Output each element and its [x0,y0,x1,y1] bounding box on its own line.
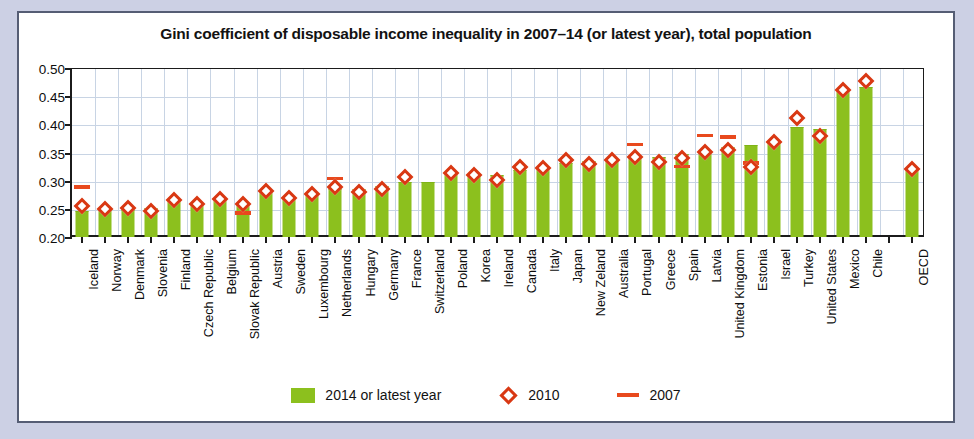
bar-2014 [791,127,804,237]
x-axis-tick-mark [796,237,798,243]
x-axis-label: Norway [110,249,124,292]
x-axis-label: Greece [664,249,678,290]
x-axis-tick-mark [196,237,198,243]
x-axis-label: Mexico [848,249,862,289]
bar-2014 [767,143,780,237]
bar-group [670,68,693,237]
x-axis-label: Chile [871,249,885,278]
bar-group [416,68,439,237]
x-axis-label: United Kingdom [733,249,747,339]
bar-group [139,68,162,237]
x-axis-label: Korea [479,249,493,283]
bar-2014 [560,163,573,237]
legend-diamond-marker-icon [500,386,518,404]
bar-2014 [444,174,457,237]
x-axis-tick-mark [404,237,406,243]
x-axis-tick-mark [473,237,475,243]
bar-group [370,68,393,237]
x-axis-label: Belgium [225,249,239,295]
legend-label: 2014 or latest year [325,387,441,403]
y-axis-tick-label: 0.35 [39,146,65,161]
x-axis-tick-mark [427,237,429,243]
bar-group [278,68,301,237]
chart-figure-frame: Gini coefficient of disposable income in… [17,11,955,423]
x-axis-tick-mark [311,237,313,243]
x-axis-tick-mark [542,237,544,243]
bar-group [509,68,532,237]
x-axis-label: Switzerland [433,249,447,314]
legend-dash-marker-icon [617,393,639,397]
x-axis-label: Germany [387,249,401,301]
bar-2014 [606,159,619,237]
legend-label: 2007 [649,387,680,403]
x-axis-label: Austria [271,249,285,288]
x-axis-label: Poland [456,249,470,288]
x-axis-label: OECD [917,249,931,285]
bar-group [786,68,809,237]
x-axis-tick-mark [773,237,775,243]
x-axis-labels: IcelandNorwayDenmarkSloveniaFinlandCzech… [70,249,924,369]
x-axis-tick-mark [681,237,683,243]
bar-group [232,68,255,237]
x-axis-tick-mark [611,237,613,243]
x-axis-label: Italy [548,249,562,272]
x-axis-tick-mark [496,237,498,243]
y-axis-tick-label: 0.50 [39,62,65,77]
x-axis-label: New Zeland [594,249,608,316]
y-axis-tick-label: 0.30 [39,174,65,189]
x-axis-tick-mark [565,237,567,243]
y-axis-tick-label: 0.40 [39,118,65,133]
x-axis-label: Sweden [294,249,308,295]
legend-bar-swatch-icon [291,388,315,403]
y-axis-tick-label: 0.45 [39,90,65,105]
x-axis-tick-mark [265,237,267,243]
bar-group [255,68,278,237]
x-axis-label: Netherlands [340,249,354,317]
marker-2007 [74,185,90,189]
bar-group [716,68,739,237]
x-axis-label: France [410,249,424,288]
x-axis-label: Ireland [502,249,516,288]
x-axis-label: Latvia [710,249,724,283]
x-axis-label: Denmark [133,249,147,300]
legend-item: 2007 [617,387,680,403]
x-axis-label: Portugal [640,249,654,296]
x-axis-tick-mark [888,237,890,243]
x-axis-tick-mark [819,237,821,243]
x-axis-label: Japan [571,249,585,283]
bar-group [601,68,624,237]
x-axis-tick-mark [911,237,913,243]
x-axis-tick-mark [150,237,152,243]
bar-group [762,68,785,237]
x-axis-tick-mark [658,237,660,243]
bar-group [208,68,231,237]
x-axis-tick-mark [519,237,521,243]
chart-legend: 2014 or latest year20102007 [19,387,953,403]
x-axis-tick-mark [242,237,244,243]
y-axis-tick-label: 0.25 [39,202,65,217]
marker-2007 [697,134,713,138]
bar-2014 [514,170,527,237]
bar-2014 [698,153,711,237]
bar-2014 [329,189,342,237]
bar-group [832,68,855,237]
x-axis-label: Australia [617,249,631,298]
x-axis-tick-mark [750,237,752,243]
bar-2014 [860,87,873,237]
bar-group [624,68,647,237]
bar-group [439,68,462,237]
x-axis-label: Estonia [756,249,770,291]
bar-group [347,68,370,237]
x-axis-label: Finland [179,249,193,290]
marker-2010 [789,110,806,127]
chart-title: Gini coefficient of disposable income in… [19,25,953,43]
bar-group-spacer [878,68,901,237]
bar-group [116,68,139,237]
x-axis-label: Canada [525,249,539,293]
bar-group [301,68,324,237]
bar-group [70,68,93,237]
x-axis-label: Turkey [802,249,816,287]
bar-group [647,68,670,237]
bar-2014 [837,90,850,237]
bar-group [693,68,716,237]
